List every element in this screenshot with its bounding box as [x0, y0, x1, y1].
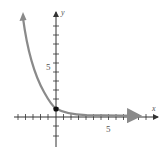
curve-arrow-up-icon: [20, 12, 27, 21]
exponential-graph: y x 5 5: [0, 0, 164, 154]
exponential-curve: [23, 18, 138, 116]
point-0-1: [53, 106, 58, 111]
x-axis-label: x: [151, 104, 156, 113]
y-tick-label-5: 5: [46, 62, 51, 72]
y-axis-label: y: [60, 8, 65, 17]
x-tick-label-5: 5: [106, 124, 111, 134]
